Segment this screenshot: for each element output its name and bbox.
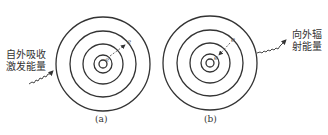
electron-label-outer-a: e	[127, 38, 131, 46]
orbit-circles-b	[163, 16, 257, 110]
absorb-label-line2: 激发能量	[6, 60, 46, 72]
caption-b: (b)	[204, 114, 217, 124]
orbit-circles-a	[56, 17, 150, 111]
wavy-arrow-in-icon	[29, 71, 53, 84]
wavy-arrow-out-icon	[257, 40, 286, 53]
electron-label-inner-a: e	[105, 56, 109, 64]
transition-arrow-inward	[219, 43, 230, 55]
electron-label-inner-b: e	[214, 54, 218, 62]
emit-label-line1: 向外辐	[292, 28, 322, 40]
atom-energy-diagram: e e 自外吸收 激发能量 (a) e e 向外辐 射能量 (b)	[0, 0, 328, 135]
panel-b: e e 向外辐 射能量 (b)	[163, 16, 322, 124]
caption-a: (a)	[95, 114, 107, 124]
electron-label-outer-b: e	[231, 36, 235, 44]
absorb-label-line1: 自外吸收	[6, 48, 46, 60]
emit-label-line2: 射能量	[292, 40, 322, 52]
panel-a: e e 自外吸收 激发能量 (a)	[6, 17, 150, 124]
